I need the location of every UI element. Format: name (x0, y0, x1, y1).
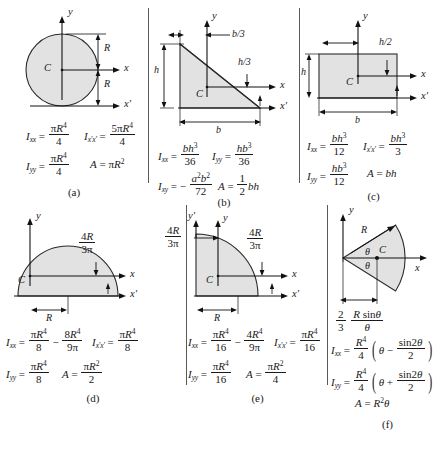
axis-label-x-c: x (421, 68, 426, 79)
axis-label-y-f: y (349, 204, 354, 215)
angle-theta-lower-f: θ (365, 260, 370, 271)
dimension-4R-over-3pi-e-right: 4R3π (246, 226, 264, 252)
dimension-b-over-3: b/3 (232, 28, 245, 39)
formula-c-ixx: Ixx = bh312 (307, 132, 349, 158)
dimension-centroid-distance-f: 23 R sinθθ (335, 308, 384, 334)
axis-label-y-a: y (68, 6, 73, 17)
panel-caption-d: (d) (0, 392, 186, 404)
divider-col4 (327, 205, 328, 385)
axis-label-yprime-e: y' (188, 210, 195, 221)
dimension-R-lower-a: R (104, 78, 110, 89)
centroid-label-c: C (346, 76, 353, 87)
formula-d-ixpxp: Ix′x′ = πR48 (92, 328, 139, 354)
formula-e-ixpxp: Ix′x′ = πR416 (274, 328, 321, 354)
dimension-R-e: R (214, 312, 220, 323)
axis-label-x-e: x (292, 268, 297, 279)
formula-b-ixy: Ixy = − a2b272 (158, 172, 213, 198)
dimension-4R-over-3pi-e-left: 4R3π (164, 224, 182, 250)
panel-caption-e: (e) (188, 392, 327, 404)
divider-col3 (186, 205, 187, 385)
dimension-R-f: R (361, 224, 367, 235)
moment-of-inertia-figure: y x x' C R R Ixx = πR44 Ix′x′ = 5πR44 Iy… (0, 0, 446, 449)
dimension-h-over-2: h/2 (379, 36, 392, 47)
formula-a-ixpxp: Ix′x′ = 5πR44 (84, 122, 136, 148)
axis-label-x-b: x (280, 79, 285, 90)
axis-label-y-d: y (36, 210, 41, 221)
panel-e: y y' x x' C R 4R3π 4R3π Ixx = πR416 − 4R… (188, 200, 327, 400)
panel-d: y x x' C R 4R3π Ixx = πR48 − 8R49π Ix′x′… (0, 200, 186, 400)
dimension-b-b: b (216, 124, 221, 135)
panel-caption-a: (a) (0, 186, 148, 198)
angle-theta-upper-f: θ (365, 246, 370, 257)
axis-label-y-c: y (363, 10, 368, 21)
dimension-h-c: h (301, 66, 306, 77)
formula-b-area: A = 12bh (218, 172, 259, 198)
axis-label-y-e: y (223, 212, 228, 223)
axis-label-xprime-a: x' (124, 98, 131, 109)
formula-e-area: A = πR24 (246, 360, 287, 386)
axis-label-xprime-c: x' (421, 90, 428, 101)
panel-b: y x x' C b/3 h/3 h b Ixx = bh336 Iyy = h… (150, 0, 298, 190)
formula-e-iyy: Iyy = πR416 (188, 360, 232, 386)
formula-c-area: A = bh (367, 167, 396, 179)
dimension-R-d: R (46, 312, 52, 323)
axis-label-x-f: x (415, 262, 420, 273)
formula-b-ixx: Ixx = bh336 (158, 142, 200, 168)
dimension-4R-over-3pi-d: 4R3π (78, 230, 96, 256)
divider-col2 (299, 8, 300, 183)
axis-label-xprime-b: x' (280, 100, 287, 111)
dimension-b-c: b (355, 114, 360, 125)
formula-c-ixpxp: Ix′x′ = bh33 (363, 132, 408, 158)
formula-f-area: A = R2θ (355, 396, 389, 409)
formula-d-iyy: Iyy = πR48 (6, 360, 50, 386)
panel-caption-f: (f) (329, 418, 446, 430)
centroid-label-b: C (196, 88, 203, 99)
axis-label-xprime-e: x' (292, 288, 299, 299)
formula-a-area: A = πR2 (90, 157, 125, 170)
formula-b-iyy: Iyy = hb336 (212, 142, 254, 168)
axis-label-x-d: x (130, 268, 135, 279)
panel-a: y x x' C R R Ixx = πR44 Ix′x′ = 5πR44 Iy… (0, 0, 148, 190)
formula-d-ixx: Ixx = πR48 − 8R49π (6, 328, 83, 354)
formula-e-ixx: Ixx = πR416 − 4R49π (188, 328, 265, 354)
centroid-label-e: C (206, 274, 213, 285)
axis-label-y-b: y (212, 10, 217, 21)
divider-col1 (148, 8, 149, 183)
dimension-h-b: h (154, 64, 159, 75)
panel-f: y x C R θ θ 23 R sinθθ Ixx = R44 ( θ − s… (329, 196, 446, 401)
axis-label-x-a: x (124, 62, 129, 73)
dimension-R-upper-a: R (104, 42, 110, 53)
formula-c-iyy: Iyy = hb312 (307, 162, 349, 188)
centroid-label-d: C (18, 274, 25, 285)
formula-d-area: A = πR22 (62, 360, 103, 386)
formula-a-iyy: Iyy = πR44 (26, 152, 70, 178)
panel-c: y x x' C h/2 h b Ixx = bh312 Ix′x′ = bh3… (301, 0, 446, 190)
formula-a-ixx: Ixx = πR44 (26, 122, 70, 148)
dimension-h-over-3: h/3 (238, 56, 251, 67)
axis-label-xprime-d: x' (130, 288, 137, 299)
formula-f-ixx: Ixx = R44 ( θ − sin2θ2 ) (331, 336, 432, 362)
centroid-label-f: C (379, 244, 386, 255)
formula-f-iyy: Iyy = R44 ( θ + sin2θ2 ) (331, 368, 432, 394)
centroid-label-a: C (44, 62, 51, 73)
